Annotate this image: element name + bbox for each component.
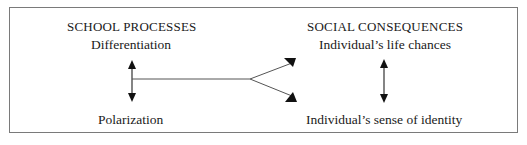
arrow-down-icon <box>380 94 388 103</box>
arrow-up-icon <box>380 59 388 68</box>
connector-diagram <box>0 0 527 145</box>
right-double-arrow <box>380 59 388 103</box>
arrow-down-icon <box>128 93 136 102</box>
fork-arrows <box>250 58 297 102</box>
arrow-up-icon <box>128 60 136 69</box>
left-double-arrow <box>128 60 136 102</box>
